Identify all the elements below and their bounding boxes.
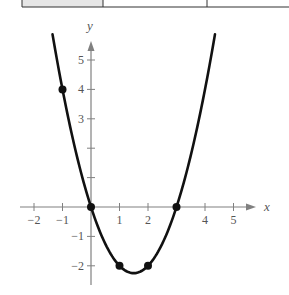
data-point xyxy=(173,203,181,211)
x-axis-arrow-icon xyxy=(246,204,256,211)
x-axis-label: x xyxy=(263,199,270,214)
data-point xyxy=(144,262,152,270)
y-axis-arrow-icon xyxy=(88,41,95,51)
y-tick-label: 3 xyxy=(78,112,84,126)
y-axis-label: y xyxy=(85,18,93,33)
y-tick-label: 4 xyxy=(78,82,84,96)
x-tick-label: −1 xyxy=(56,213,69,227)
x-tick-label: 4 xyxy=(202,213,208,227)
table-cell-shaded xyxy=(22,0,103,7)
parabola-chart: xy−2−11245−2−1345 xyxy=(0,0,289,295)
x-tick-label: −2 xyxy=(28,213,41,227)
data-point xyxy=(87,203,95,211)
y-tick-label: 5 xyxy=(78,53,84,67)
data-point xyxy=(59,85,67,93)
y-tick-label: −1 xyxy=(71,229,84,243)
x-tick-label: 1 xyxy=(117,213,123,227)
y-tick-label: −2 xyxy=(71,259,84,273)
x-tick-label: 2 xyxy=(145,213,151,227)
data-point xyxy=(116,262,124,270)
x-tick-label: 5 xyxy=(231,213,237,227)
